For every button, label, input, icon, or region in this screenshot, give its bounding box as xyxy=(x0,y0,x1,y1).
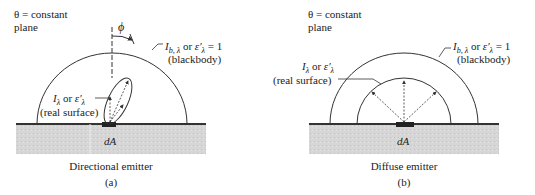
phi-angle-arc xyxy=(112,36,132,40)
svg-text:(blackbody): (blackbody) xyxy=(168,53,221,66)
caption: Diffuse emitter xyxy=(371,160,438,172)
svg-text:(real surface): (real surface) xyxy=(273,74,332,87)
svg-text:(blackbody): (blackbody) xyxy=(457,53,510,66)
directional-lobe xyxy=(98,74,137,128)
sublabel: (a) xyxy=(105,176,118,189)
plane-label: θ = constant xyxy=(14,8,68,20)
phi-label: ϕ xyxy=(118,20,124,34)
plane-label: θ = constant xyxy=(308,8,362,20)
caption: Directional emitter xyxy=(69,160,153,172)
dA-label: dA xyxy=(104,135,117,147)
svg-text:plane: plane xyxy=(308,21,332,33)
panel-directional-emitter: ϕ θ = constant plane Ib, λ or ε′λ = 1 (b… xyxy=(0,0,267,195)
real-surface-label: Iλ or ε′λ xyxy=(301,60,335,75)
dA-label: dA xyxy=(397,135,410,147)
svg-text:(real surface): (real surface) xyxy=(40,106,99,119)
panel-diffuse-emitter: θ = constant plane Ib, λ or ε′λ = 1 (bla… xyxy=(265,0,532,195)
area-element-dA xyxy=(396,122,414,127)
svg-text:plane: plane xyxy=(14,21,38,33)
sublabel: (b) xyxy=(398,176,411,189)
real-surface-label: Iλ or ε′λ xyxy=(52,92,86,107)
